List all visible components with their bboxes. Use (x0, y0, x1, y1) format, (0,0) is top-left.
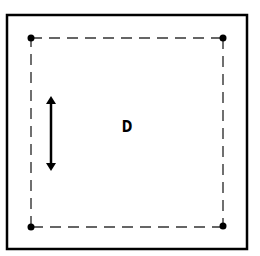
corner-dot-bottom-left (28, 224, 35, 231)
corner-dot-top-left (28, 35, 35, 42)
corner-dot-top-right (220, 35, 227, 42)
corner-dot-bottom-right (220, 223, 227, 230)
region-label: D (119, 118, 134, 136)
